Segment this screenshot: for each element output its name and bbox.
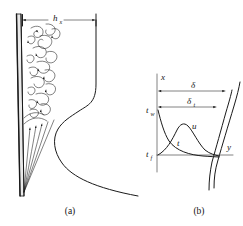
delta-t-subscript: t [194, 102, 196, 108]
transition-arcs [24, 113, 47, 124]
panel-a: h x [17, 13, 139, 217]
temperature-profile-label: t [177, 138, 180, 148]
caption-panel-a: (a) [65, 206, 76, 217]
panel-b: x y δ δ t t w t f t [146, 72, 240, 217]
y-axis-label: y [226, 142, 231, 152]
thermal-boundary-layer-curve [209, 90, 232, 190]
delta-t-symbol: δ [187, 96, 192, 106]
velocity-profile-curve [158, 124, 219, 156]
delta-symbol: δ [191, 80, 196, 90]
wall-temperature-symbol: t [146, 105, 149, 115]
vertical-plate [17, 14, 25, 196]
temperature-profile-curve [158, 110, 219, 157]
x-axis-label: x [160, 72, 165, 82]
wall-temperature-subscript: w [151, 111, 155, 117]
caption-panel-b: (b) [193, 206, 204, 217]
velocity-boundary-layer-curve [214, 82, 240, 188]
figure-container: h x [0, 0, 243, 226]
h-x-symbol: h [53, 13, 58, 23]
h-x-subscript: x [59, 19, 63, 25]
heat-transfer-coefficient-curve [55, 20, 138, 196]
fluid-temperature-subscript: f [151, 155, 154, 161]
turbulent-eddies [27, 24, 60, 118]
laminar-streamlines [24, 120, 54, 192]
fluid-temperature-symbol: t [146, 149, 149, 159]
figure-canvas: h x [0, 0, 243, 226]
velocity-profile-label: u [192, 121, 197, 131]
